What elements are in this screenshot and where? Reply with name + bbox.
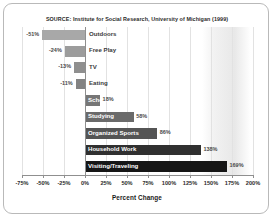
bar-row: Eating-11% <box>22 76 253 92</box>
bar-value-label: 138% <box>203 146 217 153</box>
x-axis-title: Percent Change <box>4 194 270 201</box>
bar-value-label: -11% <box>56 80 73 87</box>
x-axis: -75%-50%-25%0%25%50%75%100%125%150%175%2… <box>22 175 253 176</box>
axis-tick-label: 125% <box>183 180 197 186</box>
axis-tick <box>190 175 191 178</box>
axis-tick-label: 0% <box>81 180 89 186</box>
axis-tick <box>127 175 128 178</box>
axis-tick <box>211 175 212 178</box>
axis-tick <box>22 175 23 178</box>
bar-row: Outdoors-51% <box>22 27 253 43</box>
bar-category-label: Eating <box>89 79 108 86</box>
bar-value-label: 58% <box>136 113 147 120</box>
axis-tick-label: -75% <box>15 180 28 186</box>
bar-category-label: Visiting/Traveling <box>88 162 138 169</box>
chart-container: SOURCE: Institute for Social Research, U… <box>3 3 269 214</box>
bar <box>74 62 85 73</box>
axis-tick-label: -25% <box>57 180 70 186</box>
bar-row: Visiting/Traveling169% <box>22 159 253 175</box>
bar <box>65 46 85 57</box>
axis-tick <box>148 175 149 178</box>
axis-tick <box>43 175 44 178</box>
axis-tick-label: 150% <box>204 180 218 186</box>
source-note: SOURCE: Institute for Social Research, U… <box>4 16 270 22</box>
bar-row: Organized Sports86% <box>22 126 253 142</box>
gridline <box>253 27 254 175</box>
bar <box>42 30 85 41</box>
bar-value-label: -51% <box>22 31 39 38</box>
bar-value-label: 86% <box>160 129 171 136</box>
bar-category-label: Outdoors <box>89 30 116 37</box>
plot-area: Outdoors-51%Free Play-24%TV-13%Eating-11… <box>22 27 253 175</box>
bar-value-label: -13% <box>54 63 71 70</box>
bar-series: Outdoors-51%Free Play-24%TV-13%Eating-11… <box>22 27 253 175</box>
bar-value-label: 169% <box>229 162 243 169</box>
bar-category-label: Free Play <box>89 46 116 53</box>
bar-row: School18% <box>22 93 253 109</box>
bar-category-label: Household Work <box>88 145 136 152</box>
axis-tick-label: 75% <box>142 180 153 186</box>
bar-category-label: TV <box>89 63 97 70</box>
bar-row: Studying58% <box>22 109 253 125</box>
zero-line <box>85 27 86 175</box>
bar-row: Free Play-24% <box>22 43 253 59</box>
axis-tick-label: -50% <box>36 180 49 186</box>
axis-tick <box>106 175 107 178</box>
axis-tick-label: 50% <box>121 180 132 186</box>
axis-tick-label: 175% <box>225 180 239 186</box>
bar-value-label: -24% <box>45 47 62 54</box>
bar-value-label: 18% <box>103 96 114 103</box>
axis-tick-label: 200% <box>246 180 260 186</box>
bar-row: TV-13% <box>22 60 253 76</box>
bar-category-label: Organized Sports <box>88 129 139 136</box>
axis-tick <box>253 175 254 178</box>
axis-tick <box>232 175 233 178</box>
axis-tick-label: 100% <box>162 180 176 186</box>
bar-category-label: Studying <box>88 112 114 119</box>
bar-row: Household Work138% <box>22 142 253 158</box>
bar <box>76 79 85 90</box>
axis-tick <box>64 175 65 178</box>
axis-tick-label: 25% <box>100 180 111 186</box>
axis-tick <box>169 175 170 178</box>
axis-tick <box>85 175 86 178</box>
